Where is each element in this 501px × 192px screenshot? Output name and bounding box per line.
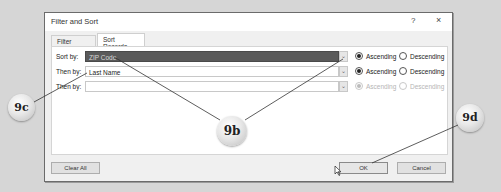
sort-by-ascending-radio[interactable]: Ascending	[355, 52, 396, 60]
then-by-2-descending-radio[interactable]: Descending	[399, 82, 444, 90]
then-by-field-2[interactable]	[85, 81, 339, 92]
sort-row-2: Then by: Last Name ⌄ Ascending Descendin…	[52, 66, 447, 78]
mouse-cursor-icon	[334, 166, 342, 176]
sort-records-panel: Sort by: ZIP Code ⌄ Ascending Descending…	[51, 46, 448, 155]
callout-9b: 9b	[217, 116, 247, 146]
title-bar: Filter and Sort ? ×	[45, 13, 452, 31]
sort-by-label: Sort by:	[56, 53, 78, 60]
then-by-2-ascending-radio[interactable]: Ascending	[355, 82, 396, 90]
then-by-label-1: Then by:	[56, 68, 81, 75]
sort-row-3: Then by: ⌄ Ascending Descending	[52, 81, 447, 93]
then-by-1-descending-radio[interactable]: Descending	[399, 67, 444, 75]
help-button[interactable]: ?	[411, 16, 415, 25]
cancel-button[interactable]: Cancel	[397, 162, 446, 174]
chevron-down-icon[interactable]: ⌄	[339, 51, 348, 62]
chevron-down-icon[interactable]: ⌄	[339, 66, 348, 77]
then-by-field-1[interactable]: Last Name	[85, 66, 339, 77]
clear-all-button[interactable]: Clear All	[51, 162, 100, 174]
ok-button[interactable]: OK	[339, 162, 388, 174]
callout-9d: 9d	[456, 104, 484, 132]
close-button[interactable]: ×	[436, 15, 441, 25]
dialog-title: Filter and Sort	[51, 17, 98, 26]
then-by-1-ascending-radio[interactable]: Ascending	[355, 67, 396, 75]
sort-row-1: Sort by: ZIP Code ⌄ Ascending Descending	[52, 51, 447, 63]
tab-sort-records[interactable]: Sort Records	[97, 33, 145, 47]
sort-by-descending-radio[interactable]: Descending	[399, 52, 444, 60]
chevron-down-icon[interactable]: ⌄	[339, 81, 348, 92]
filter-and-sort-dialog: Filter and Sort ? × Filter Records Sort …	[44, 12, 453, 182]
sort-by-field[interactable]: ZIP Code	[85, 51, 339, 62]
tab-filter-records[interactable]: Filter Records	[51, 35, 96, 46]
callout-9c: 9c	[8, 94, 35, 121]
then-by-label-2: Then by:	[56, 83, 81, 90]
